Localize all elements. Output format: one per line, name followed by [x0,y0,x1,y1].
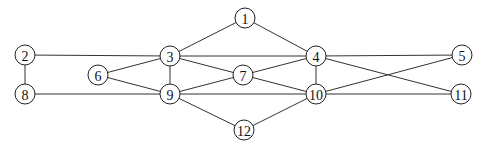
node-label: 5 [459,49,466,64]
edge-4-7 [243,56,316,75]
node-label: 2 [22,49,29,64]
edge-1-3 [170,18,245,56]
node-8: 8 [15,84,35,104]
edge-2-3 [25,55,170,56]
node-label: 10 [309,88,323,103]
node-label: 11 [454,88,467,103]
edge-7-9 [170,75,243,94]
node-10: 10 [306,84,326,104]
node-label: 1 [242,12,249,27]
node-9: 9 [160,84,180,104]
edge-4-5 [316,55,462,56]
node-11: 11 [451,84,471,104]
edge-6-9 [98,75,170,94]
graph-diagram: 123456789101112 [0,0,488,148]
node-label: 4 [313,50,320,65]
node-label: 3 [167,50,174,65]
nodes: 123456789101112 [15,8,472,140]
node-3: 3 [160,46,180,66]
edge-9-12 [170,94,244,130]
node-12: 12 [234,120,254,140]
node-label: 9 [167,88,174,103]
edge-3-6 [98,56,170,75]
node-6: 6 [88,65,108,85]
edge-10-12 [244,94,316,130]
node-7: 7 [233,65,253,85]
edge-7-10 [243,75,316,94]
node-label: 6 [95,69,102,84]
node-1: 1 [235,8,255,28]
node-5: 5 [452,45,472,65]
edge-3-7 [170,56,243,75]
edge-1-4 [245,18,316,56]
node-4: 4 [306,46,326,66]
node-label: 12 [237,124,251,139]
node-label: 8 [22,88,29,103]
node-label: 7 [240,69,247,84]
node-2: 2 [15,45,35,65]
